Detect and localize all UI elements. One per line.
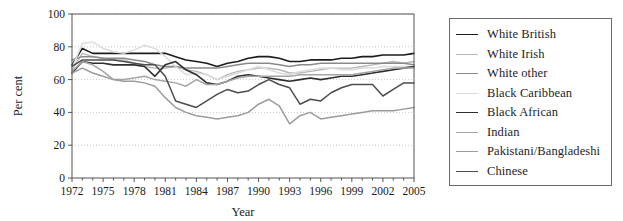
y-axis-title: Per cent — [11, 75, 25, 116]
line-chart-figure: 0204060801001972197519781981198419871990… — [0, 0, 440, 221]
y-tick-label: 0 — [59, 172, 65, 184]
legend-swatch-black-caribbean — [456, 93, 478, 94]
legend-label: Black Caribbean — [487, 86, 572, 101]
legend-swatch-black-african — [456, 112, 478, 113]
x-tick-label: 1996 — [309, 185, 332, 197]
legend-label: Indian — [487, 125, 520, 140]
x-tick-label: 1987 — [216, 185, 239, 197]
x-axis-title: Year — [231, 205, 255, 219]
legend-item[interactable]: Chinese — [456, 162, 604, 182]
legend-item[interactable]: Pakistani/Bangladeshi — [456, 142, 604, 162]
legend-label: White other — [487, 66, 547, 81]
legend-label: Pakistani/Bangladeshi — [487, 144, 600, 159]
legend-item[interactable]: Black African — [456, 103, 604, 123]
chart-legend: White British White Irish White other Bl… — [449, 18, 612, 186]
legend-swatch-pakistani-bangladeshi — [456, 151, 478, 152]
y-tick-label: 40 — [54, 106, 66, 118]
legend-swatch-white-irish — [456, 54, 478, 55]
y-tick-label: 60 — [54, 74, 66, 86]
axis-layer — [68, 14, 414, 182]
legend-item[interactable]: Black Caribbean — [456, 84, 604, 104]
chart-page: 0204060801001972197519781981198419871990… — [0, 0, 623, 221]
x-tick-label: 1990 — [247, 185, 270, 197]
x-tick-label: 1984 — [185, 185, 208, 197]
legend-label: Black African — [487, 105, 558, 120]
legend-item[interactable]: White British — [456, 25, 604, 45]
x-tick-label: 1981 — [154, 185, 177, 197]
legend-swatch-indian — [456, 132, 478, 133]
x-tick-label: 1993 — [278, 185, 301, 197]
legend-swatch-white-other — [456, 73, 478, 74]
legend-label: White Irish — [487, 47, 545, 62]
legend-label: Chinese — [487, 164, 528, 179]
x-tick-label: 1975 — [92, 185, 115, 197]
x-tick-label: 2002 — [371, 185, 394, 197]
data-series-layer — [72, 42, 414, 124]
plot-frame — [72, 14, 414, 178]
x-tick-label: 1999 — [340, 185, 363, 197]
legend-item[interactable]: White other — [456, 64, 604, 84]
y-tick-label: 80 — [54, 41, 66, 53]
y-tick-label: 100 — [48, 8, 66, 20]
legend-swatch-chinese — [456, 171, 478, 172]
y-tick-label: 20 — [54, 139, 66, 151]
legend-label: White British — [487, 27, 556, 42]
legend-item[interactable]: White Irish — [456, 45, 604, 65]
axis-labels-layer: 0204060801001972197519781981198419871990… — [48, 8, 426, 197]
legend-swatch-white-british — [456, 34, 478, 35]
chart-canvas: 0204060801001972197519781981198419871990… — [0, 0, 440, 221]
legend-item[interactable]: Indian — [456, 123, 604, 143]
x-tick-label: 1972 — [61, 185, 84, 197]
x-tick-label: 1978 — [123, 185, 146, 197]
x-tick-label: 2005 — [403, 185, 426, 197]
